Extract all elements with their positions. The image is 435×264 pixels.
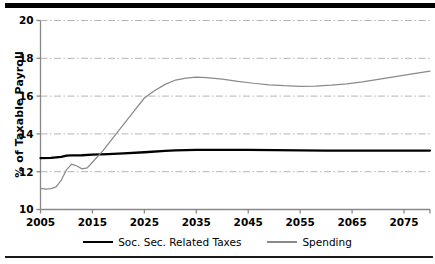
y-tick-label: 16 [19,90,34,102]
x-tick-label: 2025 [130,216,159,228]
x-tick-label: 2045 [234,216,263,228]
x-tick-label: 2075 [389,216,418,228]
x-tick-label: 2015 [78,216,107,228]
y-tick-label: 12 [19,166,34,178]
chart-plot-area: 1012141618202005201520252035204520552065… [0,0,435,264]
x-tick-label: 2035 [182,216,211,228]
x-tick-label: 2055 [286,216,315,228]
legend-label-spending: Spending [302,236,351,248]
legend-swatch-spending-icon [267,241,297,242]
x-tick-label: 2005 [26,216,55,228]
series-line-taxes [41,150,431,158]
chart-legend: Soc. Sec. Related Taxes Spending [0,236,435,248]
legend-swatch-taxes-icon [83,241,113,244]
y-tick-label: 14 [19,128,34,140]
legend-item-taxes: Soc. Sec. Related Taxes [83,236,241,248]
y-tick-label: 10 [19,203,34,215]
y-tick-label: 20 [19,14,34,26]
y-tick-label: 18 [19,52,34,64]
legend-item-spending: Spending [267,236,351,248]
x-tick-label: 2065 [337,216,366,228]
bottom-divider-rule [5,256,433,258]
legend-label-taxes: Soc. Sec. Related Taxes [118,236,241,248]
chart-figure: % of Taxable Payroll 1012141618202005201… [0,0,435,264]
